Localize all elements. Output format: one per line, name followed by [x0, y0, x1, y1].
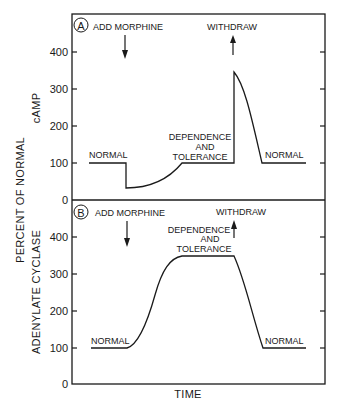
panel-a-withdraw: WITHDRAW [207, 22, 258, 32]
panel-b-normal-right: NORMAL [265, 336, 304, 346]
panel-b-add-morphine: ADD MORPHINE [95, 208, 165, 218]
panel-b-left-ticks [72, 237, 77, 348]
panel-a-curve [89, 72, 306, 188]
morphine-chart: 400 300 200 100 0 400 300 200 100 0 PERC… [0, 0, 340, 411]
panel-a-normal-left: NORMAL [89, 150, 128, 160]
panel-b-down-arrow-icon [124, 221, 130, 247]
tick-label: 400 [50, 231, 68, 243]
tick-label: 100 [50, 157, 68, 169]
panel-a-left-ticks [72, 52, 77, 163]
x-axis-label: TIME [174, 388, 201, 400]
panel-a-add-morphine: ADD MORPHINE [93, 22, 163, 32]
panel-b-y-sublabel: ADENYLATE CYCLASE [30, 230, 42, 354]
tick-label: 0 [62, 194, 68, 206]
panel-a-up-arrow-icon [230, 35, 236, 55]
tick-label: 200 [50, 120, 68, 132]
panel-b-right-ticks [320, 237, 325, 348]
panel-b-withdraw: WITHDRAW [216, 207, 267, 217]
panel-a-right-ticks [320, 52, 325, 163]
panel-a-y-sublabel: cAMP [30, 93, 42, 124]
panel-a-letter: A [77, 20, 85, 32]
panel-b-curve [91, 256, 306, 348]
panel-a-normal-right: NORMAL [265, 150, 304, 160]
panel-b-tolerance: TOLERANCE [177, 244, 232, 254]
tick-label: 300 [50, 83, 68, 95]
panel-a-and: AND [195, 142, 215, 152]
panel-b-dependence: DEPENDENCE [168, 225, 231, 235]
chart-frame [72, 14, 325, 384]
panel-a-down-arrow-icon [122, 35, 128, 59]
panel-b-up-arrow-icon [231, 220, 237, 238]
tick-label: 100 [50, 342, 68, 354]
panel-a-dependence: DEPENDENCE [169, 132, 232, 142]
tick-label: 200 [50, 305, 68, 317]
panel-a-tolerance: TOLERANCE [173, 152, 228, 162]
tick-label: 300 [50, 268, 68, 280]
tick-label: 400 [50, 46, 68, 58]
panel-b-letter: B [77, 207, 84, 219]
y-axis-label: PERCENT OF NORMAL [14, 137, 26, 263]
panel-b-normal-left: NORMAL [91, 336, 130, 346]
tick-label: 0 [62, 378, 68, 390]
panel-b-and: AND [200, 234, 220, 244]
